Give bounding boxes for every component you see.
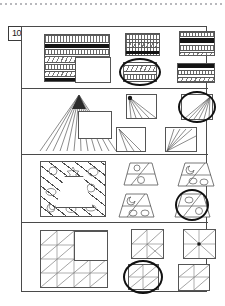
panel-4 [22, 223, 208, 293]
band-tick [45, 35, 109, 43]
grid-diagonals [184, 230, 215, 258]
grid-diagonals [129, 265, 158, 289]
option-a[interactable] [131, 229, 164, 259]
band-solid [178, 64, 214, 68]
band-tick [178, 70, 214, 75]
fan-rays [117, 128, 145, 151]
option-c[interactable] [116, 127, 146, 152]
band-wave [124, 65, 156, 72]
band-tick [124, 74, 156, 80]
band-tick [45, 49, 109, 55]
panel-2 [22, 89, 208, 155]
fan-rays [166, 128, 196, 151]
option-d[interactable] [165, 127, 197, 152]
stimulus-grid-square[interactable] [40, 230, 108, 288]
occluder-white-square [78, 111, 112, 139]
trapezoid-pattern [174, 193, 211, 218]
band-tick [126, 34, 159, 40]
option-b[interactable] [183, 229, 216, 259]
trapezoid-pattern [177, 162, 215, 187]
option-b[interactable] [177, 162, 215, 187]
option-b[interactable] [179, 31, 215, 56]
occluder-white-square [75, 57, 111, 83]
option-c[interactable] [118, 193, 155, 218]
option-c[interactable] [128, 264, 159, 290]
option-a[interactable] [123, 162, 159, 186]
option-d[interactable] [177, 63, 215, 83]
band-wave [178, 77, 214, 82]
worksheet-page: 10 [0, 0, 225, 306]
band-tick [180, 45, 214, 51]
stimulus-striped-square[interactable] [44, 34, 110, 82]
grid-diagonals [179, 265, 209, 290]
option-a[interactable] [125, 33, 160, 56]
occluder-white-square [74, 231, 108, 261]
band-solid [45, 44, 109, 48]
fan-rays [127, 95, 156, 118]
band-tick [180, 32, 214, 37]
option-a[interactable] [126, 94, 157, 119]
option-b[interactable] [181, 94, 213, 120]
option-d[interactable] [178, 264, 210, 291]
trapezoid-pattern [123, 162, 159, 186]
option-d[interactable] [174, 193, 211, 218]
panel-3 [22, 155, 208, 223]
fan-rays [182, 95, 212, 119]
option-c[interactable] [123, 62, 157, 82]
stimulus-diagonal-square[interactable] [40, 161, 106, 217]
question-frame [21, 26, 207, 292]
band-wave [180, 52, 214, 56]
band-solid [180, 38, 214, 43]
dotted-scan-line [0, 3, 225, 5]
band-solid [126, 51, 159, 54]
panel-1 [22, 27, 208, 89]
grid-diagonals [132, 230, 163, 258]
stimulus-fan-square[interactable] [38, 93, 120, 151]
band-wave [126, 42, 159, 48]
trapezoid-pattern [118, 193, 155, 218]
